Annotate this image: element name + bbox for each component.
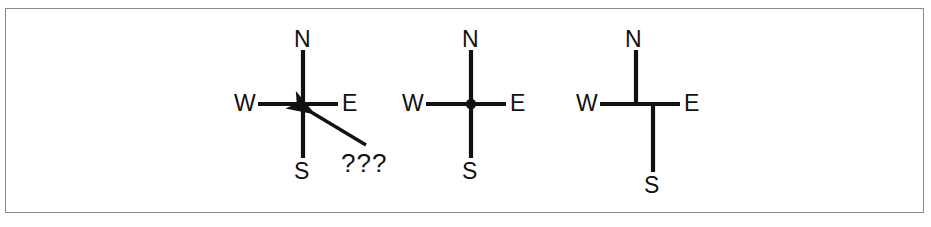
compass-2-label-west: W (402, 92, 424, 115)
compass-3-label-east: E (684, 92, 699, 115)
compass-1-label-south: S (294, 160, 309, 183)
compass-2-label-south: S (462, 160, 477, 183)
compass-1-label-west: W (234, 92, 256, 115)
compass-1 (258, 50, 338, 158)
annotation-question-marks: ??? (341, 150, 387, 176)
figure-root: N S E W ??? N S E W N S E W (0, 0, 931, 227)
compass-1-label-north: N (294, 28, 311, 51)
compass-2-label-east: E (510, 92, 525, 115)
compass-3-label-south: S (644, 174, 659, 197)
compass-1-label-east: E (342, 92, 357, 115)
compass-2-center-dot (466, 99, 476, 109)
annotation-arrow (311, 112, 366, 145)
compass-2 (426, 50, 506, 158)
compass-3-label-north: N (625, 28, 642, 51)
compass-3-label-west: W (576, 92, 598, 115)
compass-2-label-north: N (462, 28, 479, 51)
compass-3 (600, 50, 680, 172)
